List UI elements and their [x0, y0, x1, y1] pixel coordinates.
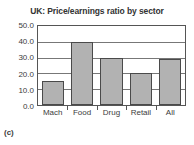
y-tick-label: 30.0	[0, 53, 34, 62]
bar-retail[interactable]	[130, 73, 152, 105]
bar-series	[38, 26, 185, 105]
x-tick-label-retail: Retail	[126, 108, 155, 117]
bar-slot	[67, 26, 96, 105]
x-tick-label-food: Food	[67, 108, 96, 117]
bar-drug[interactable]	[100, 58, 122, 105]
y-tick-label: 40.0	[0, 37, 34, 46]
y-tick-label: 50.0	[0, 21, 34, 30]
y-axis: 0.010.020.030.040.050.0	[0, 25, 34, 106]
bar-slot	[97, 26, 126, 105]
bar-food[interactable]	[71, 42, 93, 105]
x-tick-label-all: All	[156, 108, 185, 117]
x-tick-label-mach: Mach	[38, 108, 67, 117]
chart-title: UK: Price/earnings ratio by sector	[0, 6, 194, 16]
bar-slot	[126, 26, 155, 105]
bar-mach[interactable]	[42, 81, 64, 105]
x-axis: MachFoodDrugRetailAll	[38, 108, 185, 122]
y-tick-label: 10.0	[0, 85, 34, 94]
x-tick-label-drug: Drug	[97, 108, 126, 117]
figure-caption: (c)	[4, 128, 14, 137]
y-tick-label: 20.0	[0, 69, 34, 78]
bar-slot	[38, 26, 67, 105]
y-tick-label: 0.0	[0, 102, 34, 111]
bar-all[interactable]	[159, 59, 181, 105]
bar-slot	[156, 26, 185, 105]
figure-panel: UK: Price/earnings ratio by sector 0.010…	[0, 0, 194, 145]
